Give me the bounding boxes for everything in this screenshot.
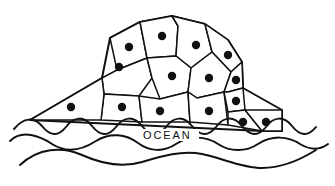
island-diagram-canvas: OCEAN [0,0,335,186]
ocean-label-group: OCEAN [141,129,199,141]
cell-dot [156,107,164,115]
cell-dot [158,32,166,40]
cell-dot [118,103,126,111]
cell-dot [192,41,200,49]
ocean-island-figure: OCEAN [0,0,335,186]
cell-polygon [30,78,104,120]
cell-group [30,16,282,131]
cell-dot [205,107,213,115]
cell-dot [205,74,213,82]
cell-dot [232,97,240,105]
cell-dot [168,72,176,80]
cell-dot [115,63,123,71]
cell-dot [125,43,133,51]
wave-line-back [20,150,316,168]
cell-dot [232,76,240,84]
cell-dot [67,103,75,111]
ocean-label: OCEAN [143,129,192,141]
cell-dot [224,51,232,59]
